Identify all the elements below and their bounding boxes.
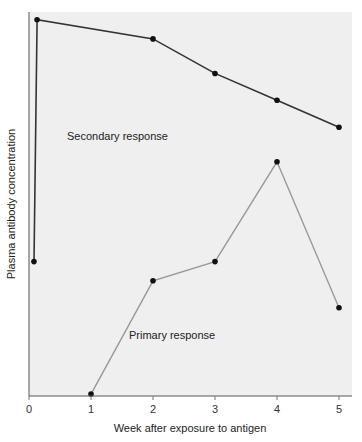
x-tick-label: 0 [26, 403, 32, 415]
antibody-response-chart: 012345 Week after exposure to antigen Pl… [0, 0, 362, 442]
data-point-marker [34, 17, 40, 23]
data-point-marker [150, 36, 156, 42]
data-point-marker [150, 278, 156, 284]
x-tick-label: 4 [274, 403, 280, 415]
secondary-response-label: Secondary response [67, 130, 168, 142]
data-point-marker [212, 259, 218, 265]
data-point-marker [336, 305, 342, 311]
x-tick-label: 2 [150, 403, 156, 415]
primary-response-label: Primary response [129, 329, 215, 341]
data-point-marker [274, 159, 280, 165]
x-tick-label: 1 [88, 403, 94, 415]
data-point-marker [31, 259, 37, 265]
x-tick-label: 5 [336, 403, 342, 415]
y-axis-title: Plasma antibody concentration [5, 129, 17, 279]
x-ticks: 012345 [26, 396, 342, 415]
x-axis-title: Week after exposure to antigen [114, 422, 267, 434]
data-point-marker [212, 71, 218, 77]
data-point-marker [274, 98, 280, 104]
data-point-marker [336, 124, 342, 130]
x-tick-label: 3 [212, 403, 218, 415]
